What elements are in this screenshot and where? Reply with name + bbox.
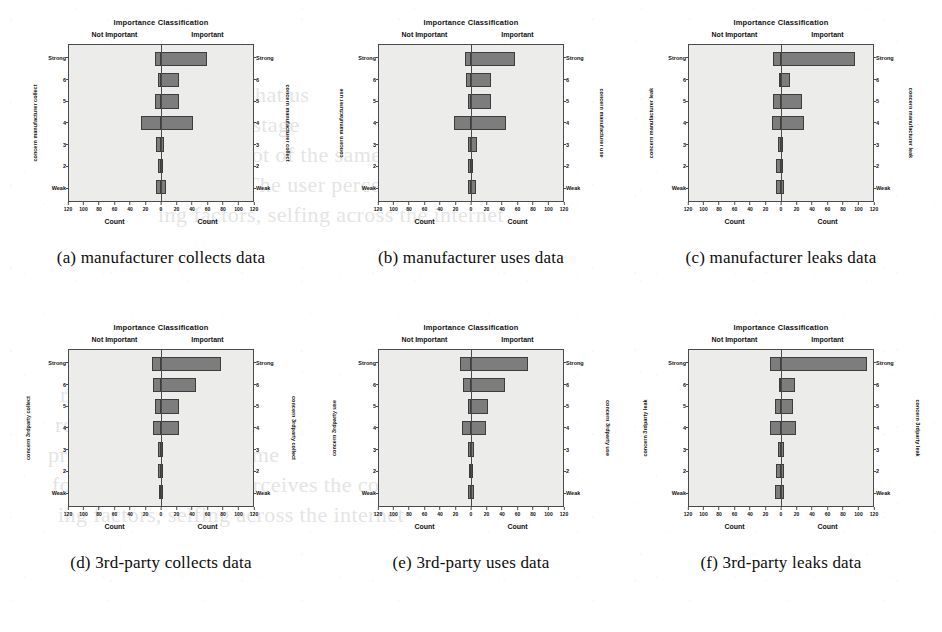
x-tick-label: 40: [189, 202, 195, 212]
x-axis: 12010080604020020406080100120CountCount: [688, 507, 874, 547]
y-axis-left: Strong65432Weakconcern 3rdparty use: [334, 349, 378, 507]
x-tick-mark: [827, 202, 828, 205]
y-tick-label: 2: [254, 462, 278, 481]
x-tick-label: 80: [220, 507, 226, 517]
y-tick-label: 5: [874, 397, 898, 416]
y-tick-label: 4: [44, 418, 68, 437]
diverging-bar-chart-c: Importance ClassificationNot ImportantIm…: [642, 18, 920, 246]
y-tick-group: Strong65432Weak: [564, 349, 588, 507]
y-axis-right: Strong65432Weakconcern manufacturer coll…: [254, 44, 298, 202]
x-axis-label-right: Count: [781, 218, 874, 225]
y-tick-label: 3: [874, 135, 898, 154]
x-tick-label: 40: [747, 202, 753, 212]
x-tick-label: 60: [515, 507, 521, 517]
x-axis: 12010080604020020406080100120CountCount: [378, 202, 564, 242]
bar-not-important: [460, 357, 471, 371]
y-tick-group: Strong65432Weak: [44, 44, 68, 202]
y-tick-label: 3: [664, 440, 688, 459]
y-tick-label: 5: [664, 92, 688, 111]
y-tick-label: 4: [254, 113, 278, 132]
y-tick-label: Strong: [874, 48, 898, 67]
x-tick-label: 20: [453, 507, 459, 517]
y-tick-label: Weak: [664, 179, 688, 198]
x-tick-label: 20: [484, 507, 490, 517]
plot-area: [68, 44, 254, 202]
y-tick-label: 6: [874, 70, 898, 89]
y-axis-title-right: concern 3rdparty use: [605, 400, 611, 456]
x-tick-label: 80: [840, 202, 846, 212]
x-tick-mark: [161, 202, 162, 205]
class-label-important: Important: [781, 31, 874, 38]
x-tick-label: 80: [530, 507, 536, 517]
x-tick-label: 80: [96, 202, 102, 212]
x-tick-mark: [765, 202, 766, 205]
panel-caption-d: (d) 3rd-party collects data: [70, 553, 251, 573]
x-tick-label: 80: [716, 507, 722, 517]
plot-area: [68, 349, 254, 507]
x-tick-label: 40: [499, 507, 505, 517]
class-label-not-important: Not Important: [378, 336, 471, 343]
x-tick-mark: [564, 202, 565, 205]
y-tick-label: 4: [354, 113, 378, 132]
plot-wrap: [378, 44, 564, 202]
diverging-bar-chart-a: Importance ClassificationNot ImportantIm…: [22, 18, 300, 246]
bar-not-important: [770, 357, 781, 371]
bar-important: [471, 399, 488, 413]
y-axis-right: Strong65432Weakconcern manufacturer use: [564, 44, 608, 202]
x-tick-label: 120: [374, 202, 382, 212]
bar-not-important: [454, 116, 471, 130]
zero-axis-line: [471, 350, 472, 506]
x-tick-label: 120: [684, 202, 692, 212]
x-tick-label: 0: [470, 202, 473, 212]
x-tick-mark: [192, 202, 193, 205]
diverging-bar-chart-b: Importance ClassificationNot ImportantIm…: [332, 18, 610, 246]
y-tick-label: 6: [254, 70, 278, 89]
y-tick-label: Weak: [564, 484, 588, 503]
y-tick-label: Strong: [664, 353, 688, 372]
x-tick-mark: [393, 507, 394, 510]
x-tick-mark: [238, 202, 239, 205]
y-axis-title-right: concern 3rdparty collect: [291, 396, 297, 460]
x-tick-mark: [765, 507, 766, 510]
y-tick-label: Weak: [874, 179, 898, 198]
x-tick-mark: [750, 202, 751, 205]
bar-not-important: [153, 421, 161, 435]
y-tick-label: Strong: [874, 353, 898, 372]
y-tick-label: 2: [564, 462, 588, 481]
y-tick-label: 5: [44, 92, 68, 111]
x-tick-mark: [502, 202, 503, 205]
diverging-bar-chart-f: Importance ClassificationNot ImportantIm…: [642, 323, 920, 551]
y-tick-label: 5: [354, 92, 378, 111]
y-axis-right: Strong65432Weakconcern manufacturer leak: [874, 44, 918, 202]
x-tick-mark: [688, 202, 689, 205]
y-tick-label: 2: [354, 157, 378, 176]
y-axis-left: Strong65432Weakconcern manufacturer leak: [644, 44, 688, 202]
y-tick-label: 4: [564, 113, 588, 132]
x-axis: 12010080604020020406080100120CountCount: [688, 202, 874, 242]
y-tick-label: Strong: [44, 48, 68, 67]
y-tick-group: Strong65432Weak: [664, 44, 688, 202]
y-tick-group: Strong65432Weak: [564, 44, 588, 202]
bar-not-important: [772, 116, 781, 130]
x-tick-label: 40: [437, 202, 443, 212]
x-tick-mark: [858, 507, 859, 510]
y-tick-label: 3: [564, 440, 588, 459]
x-axis-labels: CountCount: [378, 523, 564, 530]
plot-area: [688, 349, 874, 507]
y-tick-label: 3: [354, 440, 378, 459]
bar-important: [161, 94, 179, 108]
x-tick-group: 12010080604020020406080100120: [688, 202, 874, 211]
x-tick-label: 80: [96, 507, 102, 517]
panel-caption-c: (c) manufacturer leaks data: [686, 248, 877, 268]
x-axis-label-right: Count: [471, 218, 564, 225]
bar-not-important: [463, 378, 471, 392]
x-tick-mark: [517, 507, 518, 510]
x-axis: 12010080604020020406080100120CountCount: [378, 507, 564, 547]
y-tick-label: 3: [44, 135, 68, 154]
x-tick-label: 0: [470, 507, 473, 517]
y-tick-label: 2: [664, 462, 688, 481]
bar-important: [161, 357, 221, 371]
y-tick-label: 4: [564, 418, 588, 437]
x-tick-mark: [409, 507, 410, 510]
x-tick-mark: [130, 507, 131, 510]
